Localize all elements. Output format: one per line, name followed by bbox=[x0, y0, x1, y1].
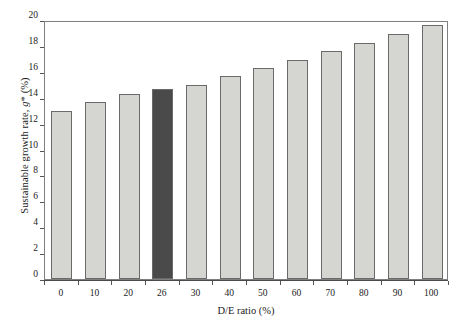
bar-highlighted bbox=[152, 89, 173, 279]
bar bbox=[422, 25, 443, 279]
y-axis-tick: 10 bbox=[0, 145, 44, 157]
bar bbox=[51, 111, 72, 279]
y-axis-tick-label: 14 bbox=[29, 87, 39, 99]
y-axis-tick-label: 4 bbox=[33, 216, 38, 228]
bar bbox=[186, 85, 207, 279]
x-axis-tick-mark bbox=[414, 281, 415, 285]
bar bbox=[287, 60, 308, 280]
x-axis-tick-mark bbox=[78, 281, 79, 285]
x-axis-tick-label: 50 bbox=[258, 288, 268, 298]
y-axis-tick-label: 0 bbox=[33, 268, 38, 280]
x-axis-tick-label: 90 bbox=[393, 288, 403, 298]
y-axis-tick: 2 bbox=[0, 248, 44, 260]
x-axis-tick-mark bbox=[246, 281, 247, 285]
y-axis-tick: 20 bbox=[0, 15, 44, 27]
x-axis-tick-mark bbox=[145, 281, 146, 285]
y-axis-tick: 18 bbox=[0, 41, 44, 53]
bar-chart: Sustainable growth rate, g* (%) 20181614… bbox=[0, 0, 466, 332]
y-axis-tick-label: 2 bbox=[33, 242, 38, 254]
x-axis-tick-label: 40 bbox=[224, 288, 234, 298]
y-axis-tick: 4 bbox=[0, 222, 44, 234]
y-axis-tick-label: 20 bbox=[29, 9, 39, 21]
plot-area bbox=[44, 21, 448, 280]
y-axis-tick-label: 8 bbox=[33, 164, 38, 176]
x-axis-tick-mark bbox=[448, 281, 449, 285]
x-axis-tick-mark bbox=[179, 281, 180, 285]
x-axis-tick-mark bbox=[111, 281, 112, 285]
y-axis-tick-label: 18 bbox=[29, 35, 39, 47]
x-axis-tick-label: 30 bbox=[191, 288, 201, 298]
x-axis-tick-mark bbox=[347, 281, 348, 285]
y-axis-tick-label: 6 bbox=[33, 190, 38, 202]
x-axis-tick-label: 60 bbox=[292, 288, 302, 298]
y-axis-tick: 12 bbox=[0, 119, 44, 131]
x-axis-tick-label: 0 bbox=[58, 288, 63, 298]
y-axis-tick: 6 bbox=[0, 196, 44, 208]
x-axis-title: D/E ratio (%) bbox=[44, 305, 448, 316]
bar bbox=[220, 76, 241, 279]
y-axis-tick-label: 10 bbox=[29, 139, 39, 151]
bar bbox=[354, 43, 375, 279]
x-axis-tick-mark bbox=[212, 281, 213, 285]
y-axis-tick: 14 bbox=[0, 93, 44, 105]
y-axis-tick: 8 bbox=[0, 170, 44, 182]
bars-layer bbox=[45, 22, 447, 279]
bar bbox=[253, 68, 274, 279]
x-axis-tick-label: 80 bbox=[359, 288, 369, 298]
x-axis-tick-mark bbox=[313, 281, 314, 285]
x-axis-tick-mark bbox=[381, 281, 382, 285]
x-axis-tick-mark bbox=[280, 281, 281, 285]
x-axis-tick-mark bbox=[44, 281, 45, 285]
bar bbox=[119, 94, 140, 279]
y-axis-tick-label: 12 bbox=[29, 113, 39, 125]
x-axis-tick-label: 10 bbox=[90, 288, 100, 298]
bar bbox=[388, 34, 409, 279]
y-axis-ticks: 20181614121086420 bbox=[0, 0, 44, 332]
x-axis-tick-label: 100 bbox=[424, 288, 438, 298]
x-axis-tick-label: 26 bbox=[157, 288, 167, 298]
x-axis-tick-label: 70 bbox=[325, 288, 335, 298]
bar bbox=[85, 102, 106, 279]
x-axis-tick-label: 20 bbox=[123, 288, 133, 298]
y-axis-tick: 0 bbox=[0, 274, 44, 286]
y-axis-tick-label: 16 bbox=[29, 61, 39, 73]
bar bbox=[321, 51, 342, 279]
y-axis-tick: 16 bbox=[0, 67, 44, 79]
